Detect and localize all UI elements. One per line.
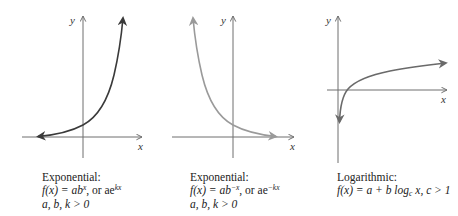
decay-curve xyxy=(193,18,276,137)
caption-exponential-decay: Exponential: f(x) = ab−x, or ae−kx a, b,… xyxy=(190,171,280,211)
caption-logarithmic: Logarithmic: f(x) = a + b logc x, c > 1 xyxy=(337,171,451,198)
caption-constraint: a, b, k > 0 xyxy=(42,198,121,211)
caption-formula: f(x) = abx, or aekx xyxy=(42,184,121,198)
panel-exponential-growth: y x xyxy=(22,14,143,158)
x-axis-label: x xyxy=(137,140,143,152)
y-axis-label: y xyxy=(325,14,331,26)
x-axis-label: x xyxy=(289,140,295,152)
caption-constraint: a, b, k > 0 xyxy=(190,198,280,211)
y-axis-label: y xyxy=(220,14,226,26)
caption-title: Logarithmic: xyxy=(337,171,451,184)
panel-logarithmic: y x xyxy=(325,14,447,163)
log-curve xyxy=(340,63,447,122)
growth-curve xyxy=(38,18,123,137)
caption-formula: f(x) = ab−x, or ae−kx xyxy=(190,184,280,198)
x-axis-label: x xyxy=(440,93,446,105)
y-axis-label: y xyxy=(69,14,75,26)
caption-exponential-growth: Exponential: f(x) = abx, or aekx a, b, k… xyxy=(42,171,121,211)
panel-exponential-decay: y x xyxy=(172,14,295,158)
caption-formula: f(x) = a + b logc x, c > 1 xyxy=(337,184,451,198)
caption-title: Exponential: xyxy=(42,171,121,184)
